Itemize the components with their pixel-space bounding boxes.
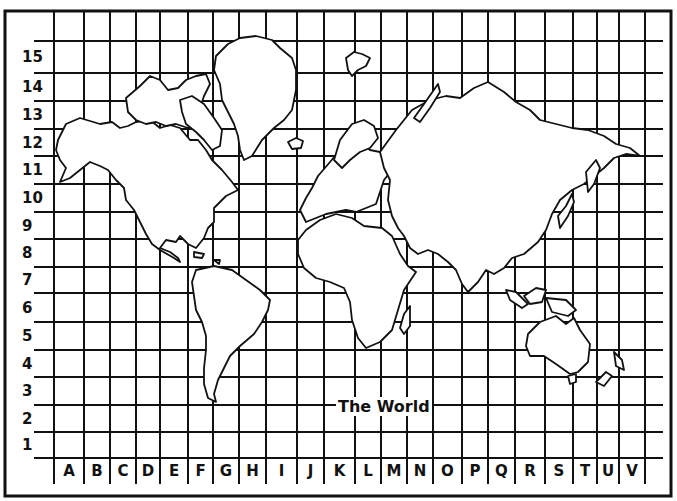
row-label: 15 (22, 49, 46, 65)
row-label: 3 (22, 383, 46, 399)
row-label: 5 (22, 328, 46, 344)
column-label: I (266, 462, 297, 480)
world-grid-map: The World 151413121110987654321 ABCDEFGH… (0, 0, 677, 501)
column-label: P (462, 462, 488, 480)
column-label: S (545, 462, 573, 480)
iceland-outline (288, 138, 303, 149)
map-canvas (0, 0, 677, 501)
column-label: B (84, 462, 110, 480)
column-label: V (619, 462, 645, 480)
caribbean-islands-outline (194, 252, 220, 264)
row-label: 4 (22, 356, 46, 372)
column-label: J (297, 462, 324, 480)
column-label: H (239, 462, 266, 480)
column-label: U (597, 462, 619, 480)
row-label: 12 (22, 135, 46, 151)
column-label: L (355, 462, 381, 480)
africa-outline (298, 214, 416, 348)
column-label: R (515, 462, 545, 480)
row-label: 7 (22, 272, 46, 288)
tasmania-outline (568, 374, 576, 384)
column-label: Q (488, 462, 515, 480)
column-label: F (188, 462, 213, 480)
column-label: D (136, 462, 160, 480)
row-label: 11 (22, 162, 46, 178)
continent-outlines (56, 36, 640, 402)
column-label: C (110, 462, 136, 480)
madagascar-outline (400, 306, 410, 334)
map-title: The World (336, 397, 432, 416)
australia-outline (526, 316, 590, 374)
row-label: 2 (22, 411, 46, 427)
new-guinea-outline (546, 298, 576, 316)
row-label: 14 (22, 79, 46, 95)
borneo-outline (524, 288, 546, 304)
row-label: 9 (22, 218, 46, 234)
row-label: 10 (22, 190, 46, 206)
column-label: O (433, 462, 462, 480)
row-label: 6 (22, 300, 46, 316)
row-label: 1 (22, 437, 46, 453)
south-america-outline (192, 266, 270, 402)
column-label: A (54, 462, 84, 480)
row-label: 13 (22, 107, 46, 123)
column-label: E (160, 462, 188, 480)
column-label: N (407, 462, 433, 480)
column-label: M (381, 462, 407, 480)
column-label: K (324, 462, 355, 480)
greenland-outline (214, 36, 296, 160)
column-label: G (213, 462, 239, 480)
column-label: T (573, 462, 597, 480)
row-label: 8 (22, 245, 46, 261)
